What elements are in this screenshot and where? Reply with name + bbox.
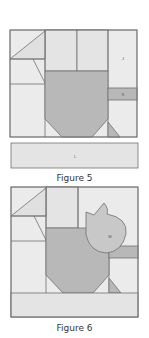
figure-6-caption: Figure 6 bbox=[0, 323, 149, 333]
figure-5-caption: Figure 5 bbox=[0, 173, 149, 183]
label-m: M bbox=[108, 234, 111, 239]
label-j: J bbox=[122, 56, 124, 61]
quilt-diagram: J K L M bbox=[0, 0, 149, 338]
cat-body bbox=[45, 71, 108, 137]
figure-5-block bbox=[10, 30, 137, 137]
label-k: K bbox=[122, 92, 125, 97]
figure-6-block bbox=[11, 187, 138, 317]
